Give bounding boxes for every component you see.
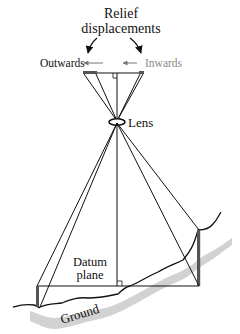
outwards-label: Outwards <box>40 57 85 69</box>
low-relief-object <box>36 286 39 307</box>
high-relief-object <box>197 230 200 286</box>
title-displacements: displacements <box>81 21 160 36</box>
ray <box>117 74 140 121</box>
ray <box>117 123 199 230</box>
relief-displacement-diagram: Relief displacements Outwards Inwards Le… <box>0 0 240 334</box>
datum-label-line2: plane <box>76 268 104 282</box>
arrow-outwards-pointer <box>88 38 97 53</box>
inwards-displacement-bar <box>139 71 144 74</box>
inwards-label: Inwards <box>145 57 183 69</box>
datum-label-line1: Datum <box>73 255 107 269</box>
lens-label: Lens <box>128 115 153 130</box>
ray <box>117 123 199 286</box>
arrow-inwards-pointer <box>130 38 141 53</box>
ray <box>84 74 117 121</box>
title-relief: Relief <box>104 6 139 21</box>
outwards-displacement-bar <box>83 71 97 74</box>
ray <box>96 74 117 121</box>
right-angle-mark-top <box>113 73 117 78</box>
right-angle-mark-bottom <box>117 281 122 286</box>
